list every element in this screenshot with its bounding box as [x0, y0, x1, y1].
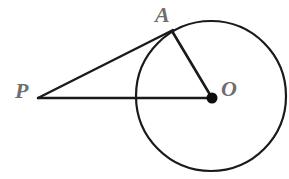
point-label-A: A	[155, 4, 170, 26]
segment-PA	[38, 30, 173, 98]
geometry-figure: A P O	[0, 0, 289, 179]
point-label-O: O	[221, 78, 237, 100]
geometry-canvas	[0, 0, 289, 179]
segment-AO	[172, 31, 212, 98]
center-point-marker-O	[207, 93, 218, 104]
point-label-P: P	[15, 80, 28, 102]
